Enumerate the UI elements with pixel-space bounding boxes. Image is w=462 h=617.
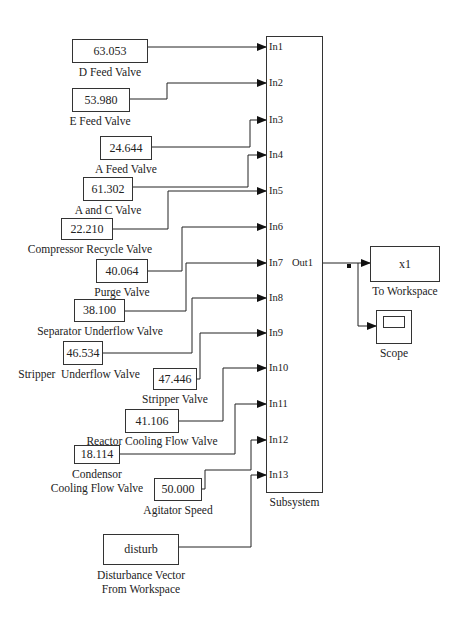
- input-port-1: In1: [269, 41, 283, 53]
- constant-block-stripper-underflow[interactable]: 46.534: [63, 341, 103, 365]
- to-workspace-label: To Workspace: [360, 284, 450, 298]
- input-port-12: In12: [269, 434, 288, 446]
- constant-block-agitator[interactable]: 50.000: [154, 478, 202, 501]
- from-workspace-label-line2: From Workspace: [86, 582, 196, 596]
- constant-label-separator-underflow: Separator Underflow Valve: [30, 324, 170, 338]
- constant-label-agitator: Agitator Speed: [135, 503, 221, 517]
- input-port-9: In9: [269, 327, 283, 339]
- constant-label-stripper: Stripper Valve: [135, 392, 215, 406]
- scope-screen-icon: [383, 316, 405, 328]
- constant-block-reactor-cooling[interactable]: 41.106: [125, 409, 179, 433]
- signal-wires: [0, 0, 462, 617]
- constant-block-a-and-c[interactable]: 61.302: [83, 177, 133, 201]
- constant-block-e-feed[interactable]: 53.980: [72, 88, 130, 112]
- input-port-10: In10: [269, 362, 288, 374]
- to-workspace-block[interactable]: x1: [370, 246, 440, 282]
- constant-label-purge: Purge Valve: [82, 285, 162, 299]
- constant-label-d-feed: D Feed Valve: [60, 65, 160, 79]
- scope-label: Scope: [369, 346, 419, 360]
- input-port-4: In4: [269, 149, 283, 161]
- constant-label-a-feed: A Feed Valve: [81, 162, 171, 176]
- simulink-diagram: Subsystem In1 In2 In3 In4 In5 In6 In7 In…: [0, 0, 462, 617]
- constant-label-condensor-cooling-line2: Cooling Flow Valve: [37, 481, 157, 495]
- constant-block-a-feed[interactable]: 24.644: [100, 136, 152, 160]
- constant-block-d-feed[interactable]: 63.053: [72, 39, 148, 63]
- constant-label-condensor-cooling-line1: Condensor: [47, 467, 147, 481]
- constant-block-stripper[interactable]: 47.446: [153, 368, 197, 390]
- input-port-6: In6: [269, 221, 283, 233]
- from-workspace-label-line1: Disturbance Vector: [86, 568, 196, 582]
- constant-block-compressor-recycle[interactable]: 22.210: [61, 218, 113, 240]
- from-workspace-block[interactable]: disturb: [103, 534, 179, 565]
- wire-stripper[interactable]: [197, 333, 266, 379]
- input-port-8: In8: [269, 292, 283, 304]
- wire-e-feed[interactable]: [130, 83, 266, 99]
- constant-block-condensor-cooling[interactable]: 18.114: [74, 445, 120, 464]
- input-port-7: In7: [269, 257, 283, 269]
- constant-block-separator-underflow[interactable]: 38.100: [74, 299, 125, 322]
- input-port-3: In3: [269, 114, 283, 126]
- constant-block-purge[interactable]: 40.064: [96, 259, 148, 283]
- constant-label-compressor-recycle: Compressor Recycle Valve: [20, 242, 160, 256]
- wire-purge[interactable]: [148, 227, 266, 271]
- signal-size-marker: [347, 264, 351, 268]
- constant-label-stripper-underflow: Stripper Underflow Valve: [12, 367, 146, 381]
- subsystem-label: Subsystem: [266, 495, 323, 509]
- input-port-13: In13: [269, 469, 288, 481]
- input-port-2: In2: [269, 77, 283, 89]
- input-port-11: In11: [269, 398, 288, 410]
- input-port-5: In5: [269, 185, 283, 197]
- scope-block[interactable]: [376, 310, 412, 344]
- output-port-1: Out1: [292, 257, 313, 269]
- constant-label-e-feed: E Feed Valve: [55, 114, 145, 128]
- constant-label-a-and-c: A and C Valve: [63, 203, 153, 217]
- wire-a-feed[interactable]: [152, 120, 266, 147]
